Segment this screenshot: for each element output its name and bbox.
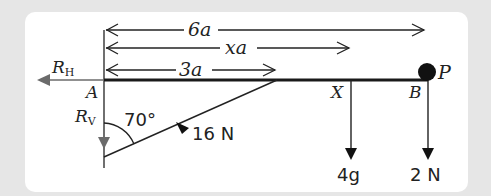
label-rh-main: R	[52, 57, 65, 77]
label-6a: 6a	[188, 20, 211, 39]
label-rh: RH	[52, 59, 74, 78]
label-rv-main: R	[75, 106, 88, 126]
label-3a: 3a	[179, 60, 202, 79]
label-x: X	[331, 84, 343, 101]
label-a: A	[86, 84, 98, 101]
label-rv: RV	[75, 108, 96, 127]
label-rv-sub: V	[88, 115, 96, 128]
particle-p	[418, 63, 436, 81]
label-load-x: 4g	[337, 166, 360, 184]
label-rh-sub: H	[65, 66, 75, 79]
label-xa: xa	[225, 38, 247, 57]
label-p: P	[438, 63, 451, 82]
label-load-b: 2 N	[410, 166, 441, 184]
label-strut-force: 16 N	[192, 125, 234, 143]
load-arrow-x	[345, 80, 357, 160]
label-b: B	[409, 84, 422, 101]
vertical-reaction-arrow	[98, 137, 110, 149]
label-angle: 70°	[124, 111, 156, 129]
dimension-6a-arrow	[106, 24, 424, 36]
strut-force-arrowhead	[176, 122, 189, 134]
load-arrow-b	[422, 80, 434, 160]
